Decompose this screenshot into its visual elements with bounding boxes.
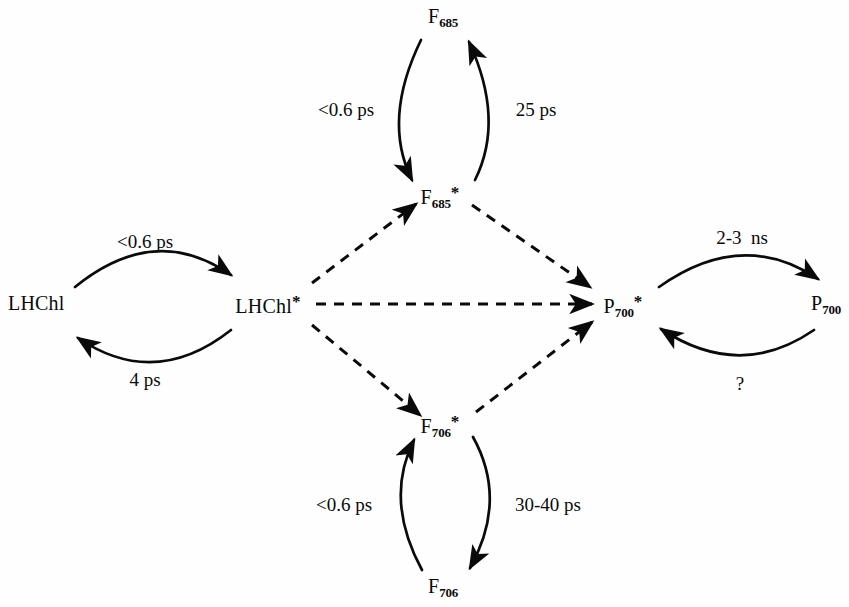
arc-f685-up [469, 42, 489, 180]
node-p700-star-subscript: 700 [615, 305, 634, 320]
excited-state-asterisk-icon: * [634, 292, 643, 311]
rate-label-p700-unknown: ? [736, 373, 744, 395]
node-p700-star: P700* [604, 292, 643, 321]
node-f706-star: F706* [421, 412, 460, 441]
dash-lhchl-to-f706 [312, 325, 420, 415]
rate-label-p700-decay: 2-3 ns [716, 227, 768, 249]
node-f685: F685 [428, 5, 458, 31]
rate-label-f706-up: <0.6 ps [316, 494, 372, 516]
excited-state-asterisk-icon: * [292, 292, 301, 311]
diagram-canvas [0, 0, 849, 607]
arc-lhchl-reverse [78, 330, 231, 362]
node-f706-base: F [428, 575, 439, 597]
dash-f706-to-p700 [476, 322, 592, 412]
node-lhchl-star-base: LHChl [235, 295, 292, 317]
rate-label-lhchl-reverse: 4 ps [129, 369, 160, 391]
kinetic-scheme-diagram: LHChl LHChl* F685 F685* F706* F706 P700*… [0, 0, 849, 607]
node-f685-base: F [428, 5, 439, 27]
arc-p700-decay [659, 255, 818, 287]
node-f685-star-subscript: 685 [432, 196, 451, 211]
rate-label-f706-down: 30-40 ps [515, 494, 581, 516]
node-p700-base: P [811, 292, 822, 314]
dash-lhchl-to-f685 [312, 204, 416, 283]
rate-label-f685-down: <0.6 ps [318, 99, 374, 121]
node-p700: P700 [811, 292, 841, 318]
node-f685-subscript: 685 [439, 15, 458, 30]
arc-f706-up [401, 440, 422, 570]
arc-p700-return [661, 329, 814, 355]
node-f685-star-base: F [421, 186, 432, 208]
node-f685-star: F685* [421, 183, 460, 212]
arc-f706-down [470, 437, 490, 568]
arc-f685-down [399, 40, 421, 180]
node-p700-star-base: P [604, 295, 615, 317]
excited-state-asterisk-icon: * [451, 183, 460, 202]
node-f706: F706 [428, 575, 458, 601]
node-lhchl: LHChl [8, 292, 65, 315]
node-f706-star-base: F [421, 415, 432, 437]
node-lhchl-base: LHChl [8, 292, 65, 314]
rate-label-f685-up: 25 ps [516, 99, 557, 121]
excited-state-asterisk-icon: * [451, 412, 460, 431]
node-f706-subscript: 706 [439, 585, 458, 600]
dash-f685-to-p700 [472, 205, 590, 287]
node-p700-subscript: 700 [822, 302, 841, 317]
arc-lhchl-forward [75, 251, 231, 287]
node-lhchl-star: LHChl* [235, 292, 300, 318]
node-f706-star-subscript: 706 [432, 425, 451, 440]
rate-label-lhchl-forward: <0.6 ps [117, 231, 173, 253]
